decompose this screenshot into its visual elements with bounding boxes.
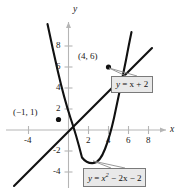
- intersection-point-lower: [56, 117, 61, 122]
- graph-canvas: [0, 0, 187, 194]
- x-tick-label-6: 6: [126, 136, 131, 145]
- equation-parabola-tail: − 2x − 2: [109, 173, 142, 183]
- x-tick-label-8: 8: [146, 136, 151, 145]
- y-axis-label: y: [73, 5, 77, 15]
- y-tick-label-neg4: -4: [53, 167, 61, 176]
- point-label-upper: (4, 6): [78, 52, 98, 61]
- x-tick-label-4: 4: [106, 136, 111, 145]
- y-tick-label-6: 6: [56, 62, 61, 71]
- graph-figure: x y -4 2 4 6 8 8 6 4 2 -2 -4 (4, 6) (−1,…: [0, 0, 187, 194]
- leader-line-linear: [109, 68, 137, 76]
- y-tick-label-8: 8: [56, 41, 61, 50]
- leader-line-parabola: [93, 161, 125, 168]
- y-tick-label-4: 4: [56, 83, 61, 92]
- equation-box-parabola: y = x2 − 2x − 2: [83, 168, 146, 187]
- x-tick-label-neg4: -4: [24, 136, 32, 145]
- x-axis-label: x: [170, 125, 174, 135]
- equation-linear-rest: = x + 2: [120, 79, 148, 89]
- line-curve: [14, 48, 152, 186]
- equation-box-linear: y = x + 2: [111, 76, 153, 93]
- y-tick-label-neg2: -2: [53, 146, 61, 155]
- x-axis: [6, 127, 166, 132]
- x-tick-label-2: 2: [86, 136, 91, 145]
- point-label-lower: (−1, 1): [13, 108, 38, 117]
- y-tick-label-2: 2: [56, 104, 61, 113]
- equation-parabola-eq: =: [92, 173, 102, 183]
